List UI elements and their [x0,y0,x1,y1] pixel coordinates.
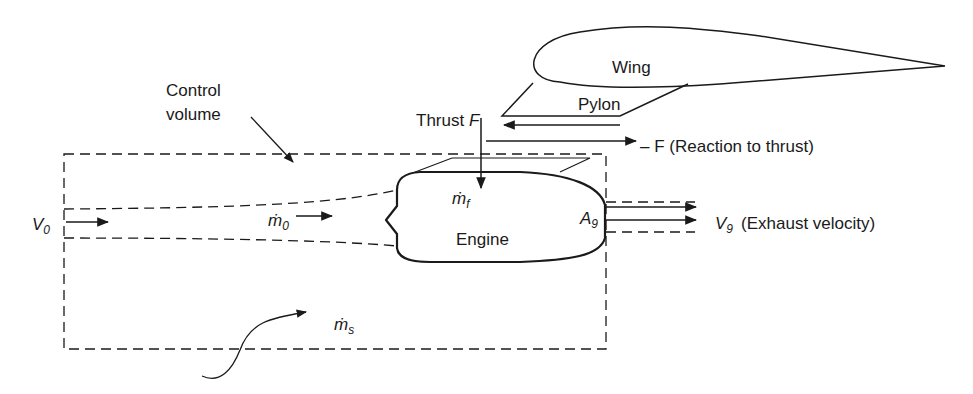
inlet-streamtube-upper [64,190,397,209]
inlet-mass-flow-label: ṁ0 [268,211,289,233]
control-volume-diagram: Wing Pylon Thrust F – F (Reaction to thr… [0,0,973,394]
control-volume-pointer-arrow [251,117,293,162]
exhaust-velocity-label: V9(Exhaust velocity) [715,214,875,236]
wing-label: Wing [612,58,651,77]
thrust-label: Thrust F [416,111,481,130]
inlet-streamtube-lower [64,238,397,246]
control-volume-label-line2: volume [166,105,221,124]
reaction-label: – F (Reaction to thrust) [640,137,814,156]
control-volume-label-line1: Control [166,81,221,100]
pylon-label: Pylon [578,95,621,114]
wing-shape [534,27,945,88]
engine-label: Engine [456,230,509,249]
side-mass-flow-label: ṁs [334,315,354,337]
side-mass-flow-arrow [202,312,306,378]
freestream-velocity-label: V0 [32,215,50,237]
